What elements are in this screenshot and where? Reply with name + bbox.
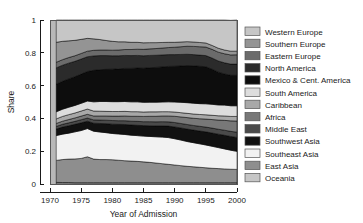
legend-swatch-east-asia (245, 161, 260, 169)
y-tick-label: 0.8 (25, 49, 37, 58)
legend-item-southwest-asia[interactable]: Southwest Asia (245, 137, 320, 147)
legend-item-east-asia[interactable]: East Asia (245, 161, 299, 171)
y-axis-title: Share (6, 90, 16, 113)
legend-label-oceania: Oceania (265, 174, 295, 183)
legend-label-western-europe: Western Europe (265, 28, 323, 37)
legend-item-oceania[interactable]: Oceania (245, 173, 295, 183)
y-tick-label: 0.4 (25, 114, 37, 123)
legend-label-east-asia: East Asia (265, 162, 299, 171)
x-tick-label: 1990 (166, 196, 184, 205)
legend-swatch-eastern-europe (245, 51, 260, 59)
x-axis-title: Year of Admission (110, 209, 178, 219)
legend-swatch-southern-europe (245, 39, 260, 47)
legend: Western EuropeSouthern EuropeEastern Eur… (245, 27, 351, 183)
legend-label-eastern-europe: Eastern Europe (265, 52, 321, 61)
y-tick-label: 1 (32, 16, 37, 25)
legend-swatch-africa (245, 112, 260, 120)
chart-figure: 00.20.40.60.81Share197019751980198519901… (0, 0, 363, 223)
legend-label-north-america: North America (265, 64, 316, 73)
y-axis-ticks: 00.20.40.60.81 (25, 16, 44, 189)
legend-item-africa[interactable]: Africa (245, 112, 286, 122)
legend-item-southeast-asia[interactable]: Southeast Asia (245, 149, 319, 159)
y-tick-label: 0.2 (25, 147, 37, 156)
chart-bands (56, 20, 237, 184)
x-axis-ticks: 1970197519801985199019952000 (41, 188, 246, 205)
legend-label-southwest-asia: Southwest Asia (265, 137, 320, 146)
legend-label-mexico-cent-america: Mexico & Cent. America (265, 76, 351, 85)
legend-swatch-middle-east (245, 125, 260, 133)
x-tick-label: 2000 (228, 196, 246, 205)
legend-swatch-southeast-asia (245, 149, 260, 157)
y-tick-label: 0 (32, 180, 37, 189)
y-tick-label: 0.6 (25, 82, 37, 91)
legend-item-north-america[interactable]: North America (245, 64, 316, 74)
legend-item-caribbean[interactable]: Caribbean (245, 100, 302, 110)
legend-item-eastern-europe[interactable]: Eastern Europe (245, 51, 321, 61)
x-tick-label: 1995 (197, 196, 215, 205)
legend-label-africa: Africa (265, 113, 286, 122)
legend-item-southern-europe[interactable]: Southern Europe (245, 39, 326, 49)
legend-item-middle-east[interactable]: Middle East (245, 125, 308, 135)
legend-swatch-mexico-cent-america (245, 76, 260, 84)
x-tick-label: 1980 (103, 196, 121, 205)
legend-label-southern-europe: Southern Europe (265, 40, 326, 49)
x-tick-label: 1985 (135, 196, 153, 205)
x-tick-label: 1970 (41, 196, 59, 205)
legend-item-western-europe[interactable]: Western Europe (245, 27, 323, 37)
legend-swatch-south-america (245, 88, 260, 96)
legend-label-caribbean: Caribbean (265, 101, 302, 110)
legend-label-south-america: South America (265, 89, 318, 98)
legend-swatch-western-europe (245, 27, 260, 35)
legend-label-southeast-asia: Southeast Asia (265, 150, 319, 159)
legend-swatch-caribbean (245, 100, 260, 108)
legend-swatch-north-america (245, 64, 260, 72)
legend-swatch-oceania (245, 173, 260, 181)
legend-swatch-southwest-asia (245, 137, 260, 145)
legend-item-south-america[interactable]: South America (245, 88, 318, 98)
legend-item-mexico-cent-america[interactable]: Mexico & Cent. America (245, 76, 351, 86)
x-tick-label: 1975 (72, 196, 90, 205)
legend-label-middle-east: Middle East (265, 125, 308, 134)
stacked-area-chart: 00.20.40.60.81Share197019751980198519901… (0, 0, 363, 223)
